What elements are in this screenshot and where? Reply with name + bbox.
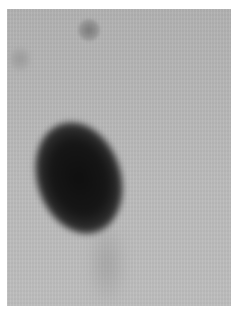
spot-left (10, 47, 30, 71)
blot-image (7, 9, 231, 306)
spot-top (78, 19, 100, 41)
